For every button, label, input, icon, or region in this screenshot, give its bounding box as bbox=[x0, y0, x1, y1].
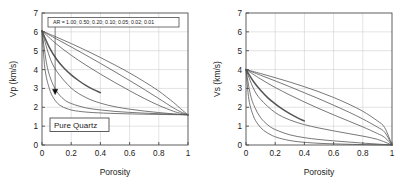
y-tick-label: 0 bbox=[237, 141, 242, 150]
x-tick-label: 0.2 bbox=[66, 149, 78, 158]
x-tick-label: 0.2 bbox=[270, 149, 282, 158]
y-tick-label: 1 bbox=[237, 122, 242, 131]
vp-plot-svg: 00.20.40.60.8101234567 Vp (km/s) Porosit… bbox=[0, 0, 205, 181]
vp-x-axis-label: Porosity bbox=[100, 167, 131, 177]
x-tick-label: 0 bbox=[244, 149, 249, 158]
curve-0-2 bbox=[42, 31, 188, 115]
x-tick-label: 1 bbox=[390, 149, 395, 158]
curve-0-05 bbox=[42, 31, 188, 115]
y-tick-label: 3 bbox=[33, 84, 38, 93]
panel-vs: 00.20.40.60.8101234567 Vs (km/s) Porosit… bbox=[205, 0, 410, 181]
x-tick-label: 0.4 bbox=[299, 149, 311, 158]
y-tick-label: 2 bbox=[33, 103, 38, 112]
y-tick-label: 4 bbox=[237, 66, 242, 75]
vs-plot-svg: 00.20.40.60.8101234567 Vs (km/s) Porosit… bbox=[205, 0, 410, 181]
x-tick-label: 0.8 bbox=[153, 149, 165, 158]
y-tick-label: 0 bbox=[33, 141, 38, 150]
curve-0-02 bbox=[42, 31, 188, 115]
velocity-porosity-figure: 00.20.40.60.8101234567 Vp (km/s) Porosit… bbox=[0, 0, 410, 181]
y-tick-label: 1 bbox=[33, 122, 38, 131]
material-label: Pure Quartz bbox=[54, 121, 97, 130]
y-tick-label: 2 bbox=[237, 103, 242, 112]
vs-y-axis-label: Vs (km/s) bbox=[212, 61, 222, 97]
vp-tick-labels: 00.20.40.60.8101234567 bbox=[33, 9, 190, 158]
y-tick-label: 6 bbox=[33, 28, 38, 37]
vp-curves bbox=[42, 31, 188, 115]
curve-0-5 bbox=[42, 31, 188, 115]
vs-tick-labels: 00.20.40.60.8101234567 bbox=[237, 9, 394, 158]
x-tick-label: 0.4 bbox=[95, 149, 107, 158]
y-tick-label: 3 bbox=[237, 84, 242, 93]
y-tick-label: 7 bbox=[33, 9, 38, 18]
curve-0-01 bbox=[42, 31, 188, 115]
panel-vp: 00.20.40.60.8101234567 Vp (km/s) Porosit… bbox=[0, 0, 205, 181]
x-tick-label: 0.8 bbox=[357, 149, 369, 158]
y-tick-label: 7 bbox=[237, 9, 242, 18]
material-annotation: Pure Quartz bbox=[50, 118, 109, 132]
curve-1 bbox=[42, 31, 188, 115]
x-tick-label: 0.6 bbox=[328, 149, 340, 158]
y-tick-label: 5 bbox=[237, 47, 242, 56]
x-tick-label: 1 bbox=[186, 149, 191, 158]
x-tick-label: 0 bbox=[40, 149, 45, 158]
y-tick-label: 6 bbox=[237, 28, 242, 37]
x-tick-label: 0.6 bbox=[124, 149, 136, 158]
aspect-ratio-annotation: AR = 1.00; 0.50; 0.20; 0.10; 0.05; 0.02;… bbox=[48, 18, 179, 28]
vp-y-axis-label: Vp (km/s) bbox=[8, 61, 18, 98]
y-tick-label: 4 bbox=[33, 66, 38, 75]
y-tick-label: 5 bbox=[33, 47, 38, 56]
aspect-ratio-label: AR = 1.00; 0.50; 0.20; 0.10; 0.05; 0.02;… bbox=[53, 19, 154, 25]
vs-x-axis-label: Porosity bbox=[304, 167, 335, 177]
